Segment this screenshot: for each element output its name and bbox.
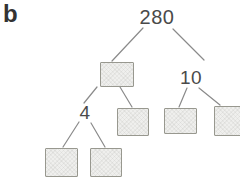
answer-box-bottom-right xyxy=(90,148,122,177)
answer-box-ten-left xyxy=(164,108,197,134)
answer-box-mid xyxy=(117,108,149,136)
node-ten-label: 10 xyxy=(176,68,206,87)
answer-box-root-left xyxy=(100,62,134,87)
branch-four-to-br-box xyxy=(91,123,105,147)
root-value: 280 xyxy=(137,7,177,27)
node-four-label: 4 xyxy=(75,103,95,122)
branch-ten-to-left-box xyxy=(179,88,187,107)
branch-leftbox-to-four xyxy=(84,87,97,103)
branch-leftbox-to-midbox xyxy=(120,87,132,107)
branch-four-to-bl-box xyxy=(63,122,79,147)
factor-tree-figure: b 280 10 4 xyxy=(0,0,240,180)
branch-root-to-ten xyxy=(173,29,204,60)
answer-box-bottom-left xyxy=(45,148,78,177)
branch-root-to-left-box xyxy=(112,28,143,61)
answer-box-ten-right xyxy=(214,106,240,136)
branch-ten-to-right-box xyxy=(199,88,220,105)
